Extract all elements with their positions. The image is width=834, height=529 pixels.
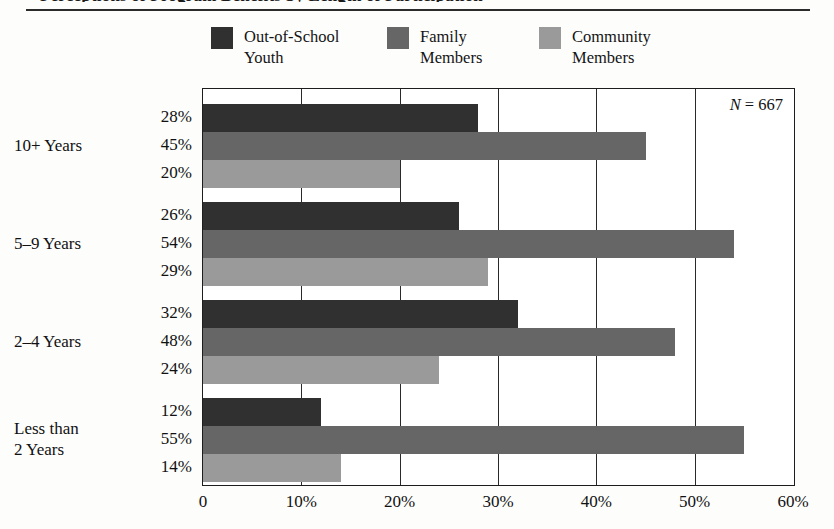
figure-title-cropped: Perceptions of Program Benefits by Lengt… <box>0 0 834 2</box>
sample-size-symbol: N <box>730 95 741 114</box>
x-axis-tick-labels: 010%20%30%40%50%60% <box>0 488 834 522</box>
bar-3-0 <box>203 398 321 426</box>
legend-swatch-out-of-school-youth <box>211 27 233 49</box>
bar-1-2 <box>203 258 488 286</box>
tick-label-20: 20% <box>384 492 415 512</box>
tick-label-0: 0 <box>199 492 208 512</box>
bar-1-1 <box>203 230 734 258</box>
legend-item-0: Out-of-School Youth <box>211 26 339 68</box>
bar-1-0 <box>203 202 459 230</box>
legend-item-2: Community Members <box>539 26 651 68</box>
sample-size-value: = 667 <box>745 95 783 114</box>
tick-label-30: 30% <box>482 492 513 512</box>
sample-size-annotation: N = 667 <box>730 95 783 115</box>
bar-0-2 <box>203 160 400 188</box>
chart-legend: Out-of-School YouthFamily MembersCommuni… <box>0 26 834 82</box>
legend-label-1: Family Members <box>420 26 482 68</box>
legend-swatch-community-members <box>539 27 561 49</box>
category-axis-labels: 10+ Years5–9 Years2–4 YearsLess than 2 Y… <box>0 88 202 486</box>
category-label-1: 5–9 Years <box>0 233 122 254</box>
bar-0-0 <box>203 104 478 132</box>
legend-swatch-family-members <box>387 27 409 49</box>
chart-figure: Perceptions of Program Benefits by Lengt… <box>0 0 834 529</box>
category-label-2: 2–4 Years <box>0 331 122 352</box>
figure-title-text: Perceptions of Program Benefits by Lengt… <box>40 0 800 2</box>
bar-3-2 <box>203 454 341 482</box>
tick-label-60: 60% <box>777 492 808 512</box>
bar-2-0 <box>203 300 518 328</box>
category-label-0: 10+ Years <box>0 135 122 156</box>
plot-area: N = 667 <box>202 88 795 486</box>
legend-item-1: Family Members <box>387 26 482 68</box>
legend-label-0: Out-of-School Youth <box>244 26 339 68</box>
tick-label-40: 40% <box>581 492 612 512</box>
category-label-3: Less than 2 Years <box>0 418 122 460</box>
legend-label-2: Community Members <box>572 26 651 68</box>
tick-label-10: 10% <box>286 492 317 512</box>
bar-2-2 <box>203 356 439 384</box>
bar-0-1 <box>203 132 646 160</box>
tick-label-50: 50% <box>679 492 710 512</box>
bar-3-1 <box>203 426 744 454</box>
title-divider-rule <box>26 9 810 11</box>
bar-2-1 <box>203 328 675 356</box>
